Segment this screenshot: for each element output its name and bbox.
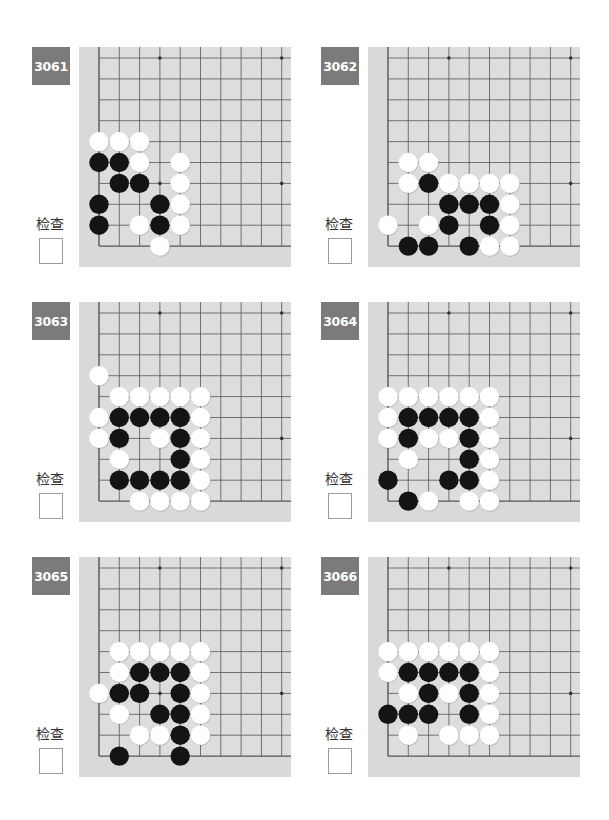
check-checkbox[interactable] [328,493,352,519]
white-stone [130,216,149,235]
white-stone [480,450,499,469]
black-stone [480,216,499,235]
white-stone [439,684,458,703]
black-stone [399,663,418,682]
black-stone [171,663,190,682]
white-stone [419,429,438,448]
black-stone [110,408,129,427]
black-stone [419,663,438,682]
white-stone [191,387,210,406]
white-stone [110,132,129,151]
black-stone [89,195,108,214]
black-stone [439,408,458,427]
white-stone [171,153,190,172]
star-point [158,692,162,696]
black-stone [439,216,458,235]
white-stone [191,429,210,448]
white-stone [130,726,149,745]
white-stone [500,216,519,235]
white-stone [378,408,397,427]
problem-number: 3065 [32,557,70,595]
star-point [280,56,284,60]
white-stone [171,174,190,193]
white-stone [480,684,499,703]
white-stone [191,684,210,703]
problem-number: 3062 [321,47,359,85]
white-stone [89,408,108,427]
black-stone [460,408,479,427]
white-stone [439,726,458,745]
check-label: 检查 [36,723,64,743]
white-stone [378,387,397,406]
white-stone [480,663,499,682]
problem-number: 3061 [32,47,70,85]
white-stone [191,663,210,682]
check-checkbox[interactable] [328,238,352,264]
black-stone [460,429,479,448]
check-checkbox[interactable] [39,748,63,774]
star-point [158,311,162,315]
go-problem-3065: 3065 检查 [32,557,292,779]
white-stone [460,491,479,510]
white-stone [419,642,438,661]
white-stone [439,174,458,193]
white-stone [439,642,458,661]
white-stone [419,216,438,235]
black-stone [460,195,479,214]
white-stone [110,387,129,406]
white-stone [480,471,499,490]
white-stone [480,387,499,406]
black-stone [171,726,190,745]
white-stone [480,642,499,661]
white-stone [480,726,499,745]
problem-number: 3064 [321,302,359,340]
go-board [79,302,291,522]
go-board [368,557,580,777]
white-stone [460,387,479,406]
go-problem-3061: 3061 检查 [32,47,292,269]
black-stone [439,471,458,490]
white-stone [191,491,210,510]
check-checkbox[interactable] [39,493,63,519]
check-checkbox[interactable] [39,238,63,264]
white-stone [130,153,149,172]
star-point [158,182,162,186]
black-stone [150,408,169,427]
black-stone [419,684,438,703]
white-stone [399,450,418,469]
black-stone [419,408,438,427]
white-stone [419,153,438,172]
black-stone [480,195,499,214]
black-stone [460,471,479,490]
black-stone [150,663,169,682]
black-stone [130,174,149,193]
black-stone [399,408,418,427]
white-stone [150,642,169,661]
white-stone [191,642,210,661]
go-problem-3062: 3062 检查 [321,47,581,269]
white-stone [378,216,397,235]
white-stone [480,236,499,255]
black-stone [399,491,418,510]
white-stone [89,132,108,151]
go-board [79,47,291,267]
check-checkbox[interactable] [328,748,352,774]
black-stone [171,684,190,703]
white-stone [110,450,129,469]
white-stone [460,726,479,745]
black-stone [110,746,129,765]
black-stone [399,236,418,255]
white-stone [399,684,418,703]
white-stone [171,216,190,235]
white-stone [150,236,169,255]
black-stone [171,746,190,765]
white-stone [130,387,149,406]
black-stone [439,663,458,682]
white-stone [439,429,458,448]
white-stone [130,132,149,151]
white-stone [419,387,438,406]
white-stone [460,174,479,193]
black-stone [378,471,397,490]
go-board [368,302,580,522]
star-point [158,566,162,570]
